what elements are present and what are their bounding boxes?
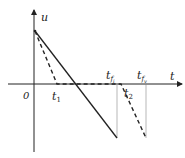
t2-label: t2: [124, 87, 133, 101]
tfv-label: tfv: [137, 69, 147, 84]
y-axis-label: u: [41, 11, 48, 24]
x-axis-label: t: [170, 70, 175, 83]
start-point: [34, 30, 37, 33]
tfi-label: tfi: [106, 69, 115, 84]
origin-label: 0: [23, 90, 30, 101]
t1-label: t1: [52, 90, 61, 104]
waveform-diagram: u t 0 t1 t2 tfi tfv: [0, 0, 185, 158]
